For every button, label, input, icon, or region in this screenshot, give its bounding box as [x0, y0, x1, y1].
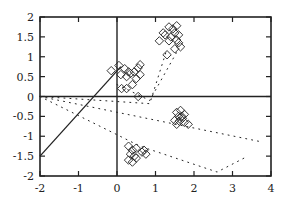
y-tick-label: -2 [23, 170, 34, 183]
chart-canvas: -2-101234 -2-1.5-1-0.500.511.52 [0, 0, 287, 208]
x-tick-label: -2 [35, 182, 46, 195]
y-tick-label: -0.5 [13, 110, 34, 123]
x-tick-label: 4 [268, 182, 275, 195]
cluster-upper-right [155, 22, 185, 59]
data-markers [107, 22, 192, 167]
x-tick-labels: -2-101234 [35, 182, 275, 195]
solid-line [40, 67, 121, 156]
dotted-line-1 [40, 49, 167, 104]
dotted-line-4 [40, 97, 244, 173]
x-tick-label: 1 [152, 182, 159, 195]
diamond-marker [124, 142, 132, 150]
y-tick-label: -1 [23, 130, 34, 143]
x-tick-label: -1 [73, 182, 84, 195]
scatter-plot: -2-101234 -2-1.5-1-0.500.511.52 [0, 0, 287, 208]
y-tick-label: 1.5 [17, 31, 35, 44]
diamond-marker [163, 51, 171, 59]
y-tick-label: -1.5 [13, 150, 34, 163]
y-tick-labels: -2-1.5-1-0.500.511.52 [13, 11, 34, 183]
x-tick-label: 3 [229, 182, 236, 195]
diamond-marker [117, 84, 125, 92]
x-tick-label: 2 [191, 182, 198, 195]
x-tick-label: 0 [114, 182, 121, 195]
cluster-lower-middle [124, 142, 150, 166]
plot-lines [40, 49, 263, 172]
diamond-marker [155, 37, 163, 45]
y-tick-label: 1 [27, 51, 34, 64]
y-tick-label: 2 [27, 11, 34, 24]
y-tick-label: 0 [27, 91, 34, 104]
diamond-marker [172, 120, 180, 128]
y-tick-label: 0.5 [17, 71, 35, 84]
